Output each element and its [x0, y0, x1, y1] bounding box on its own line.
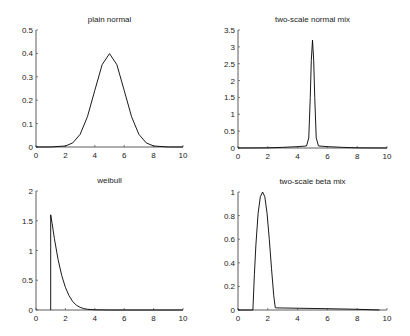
plot-title: two-scale normal mix [275, 15, 350, 24]
y-tick-label: 0.5 [224, 127, 236, 136]
x-tick-label: 2 [63, 314, 68, 323]
density-curve [238, 192, 380, 310]
x-tick-label: 8 [151, 151, 156, 160]
y-tick-label: 0.4 [224, 259, 236, 268]
subplot-weibull: weibull 024681000.511.52 [22, 176, 188, 323]
x-tick-label: 10 [383, 152, 392, 161]
x-tick-label: 10 [383, 314, 392, 323]
y-tick-label: 2 [231, 77, 236, 86]
x-tick-label: 6 [122, 314, 127, 323]
x-tick-label: 2 [63, 151, 68, 160]
y-tick-label: 0.2 [224, 282, 236, 291]
x-tick-label: 4 [93, 314, 98, 323]
x-tick-label: 10 [179, 314, 188, 323]
x-tick-label: 0 [34, 151, 39, 160]
y-tick-label: 0 [231, 144, 236, 153]
x-tick-label: 6 [325, 314, 330, 323]
plot-title: plain normal [88, 15, 132, 24]
x-tick-label: 8 [355, 314, 360, 323]
x-tick-label: 0 [236, 152, 241, 161]
y-tick-label: 0.8 [224, 212, 236, 221]
y-tick-label: 0.4 [22, 49, 34, 58]
x-tick-label: 6 [122, 151, 127, 160]
density-curve [51, 215, 183, 310]
x-tick-label: 4 [93, 151, 98, 160]
y-tick-label: 0 [29, 306, 34, 315]
x-tick-label: 2 [266, 314, 271, 323]
x-tick-label: 8 [355, 152, 360, 161]
x-tick-label: 4 [295, 314, 300, 323]
y-tick-label: 0 [29, 143, 34, 152]
x-tick-label: 8 [151, 314, 156, 323]
x-tick-label: 10 [179, 151, 188, 160]
x-tick-label: 2 [266, 152, 271, 161]
y-tick-label: 0.5 [22, 276, 34, 285]
y-tick-label: 1 [29, 247, 34, 256]
plot-title: weibull [96, 176, 122, 185]
y-tick-label: 3.5 [224, 26, 236, 35]
subplot-plain-normal: plain normal 024681000.10.20.30.40.5 [22, 15, 188, 160]
x-tick-label: 0 [236, 314, 241, 323]
x-tick-label: 4 [295, 152, 300, 161]
y-tick-label: 0.2 [22, 96, 34, 105]
density-curve [36, 54, 183, 147]
y-tick-label: 0.1 [22, 120, 34, 129]
subplot-two-scale-normal-mix: two-scale normal mix 024681000.511.522.5… [224, 15, 392, 161]
y-tick-label: 2.5 [224, 60, 236, 69]
y-tick-label: 0.3 [22, 73, 34, 82]
x-tick-label: 6 [325, 152, 330, 161]
y-tick-label: 2 [29, 187, 34, 196]
y-tick-label: 0 [231, 306, 236, 315]
figure: plain normal 024681000.10.20.30.40.5 two… [0, 0, 410, 336]
y-tick-label: 1.5 [22, 217, 34, 226]
y-tick-label: 1.5 [224, 93, 236, 102]
plot-title: two-scale beta mix [279, 177, 345, 186]
density-curve [238, 40, 387, 148]
y-tick-label: 1 [231, 188, 236, 197]
x-tick-label: 0 [34, 314, 39, 323]
subplot-two-scale-beta-mix: two-scale beta mix 024681000.20.40.60.81 [224, 177, 392, 323]
y-tick-label: 3 [231, 43, 236, 52]
y-tick-label: 0.6 [224, 235, 236, 244]
y-tick-label: 0.5 [22, 26, 34, 35]
y-tick-label: 1 [231, 110, 236, 119]
